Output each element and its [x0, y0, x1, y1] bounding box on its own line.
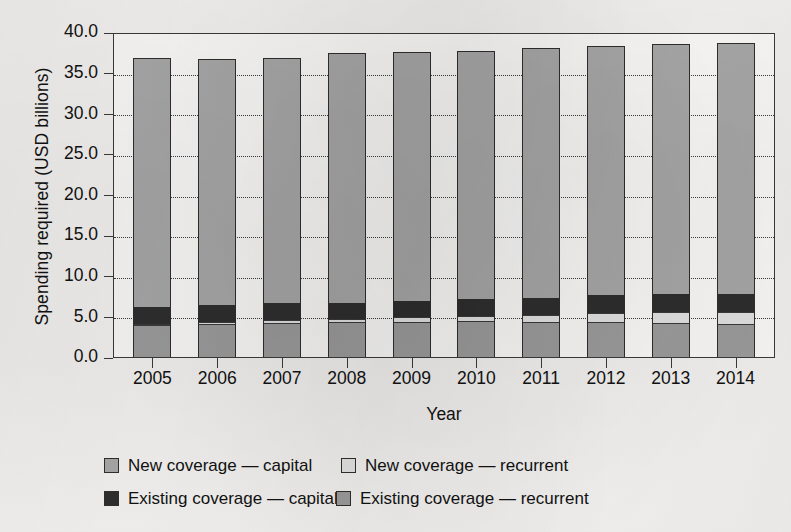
- bar-segment-existing-capital: [458, 299, 494, 315]
- bar-segment-new-capital: [329, 54, 365, 303]
- bar-segment-existing-capital: [329, 303, 365, 319]
- y-axis-tick-mark: [104, 276, 113, 277]
- legend-item-new-coverage-capital: New coverage — capital: [104, 456, 341, 476]
- y-axis-tick-mark: [104, 317, 113, 318]
- legend-item-new-coverage-recurrent: New coverage — recurrent: [341, 456, 568, 476]
- x-axis-tick: [476, 358, 477, 368]
- x-axis-tick-label: 2010: [444, 368, 508, 389]
- bar-segment-existing-capital: [653, 294, 689, 312]
- x-axis-tick: [541, 358, 542, 368]
- legend-row-bottom: Existing coverage — capital Existing cov…: [104, 482, 704, 515]
- bar-segment-new-capital: [458, 52, 494, 300]
- bar-segment-new-recurrent: [653, 312, 689, 323]
- bar-segment-existing-capital: [523, 298, 559, 315]
- bar-segment-existing-recurrent: [329, 323, 365, 357]
- y-axis-tick-mark: [104, 114, 113, 115]
- y-axis-tick-mark: [104, 358, 113, 359]
- legend-swatch-existing-coverage-recurrent-icon: [336, 491, 351, 506]
- x-axis-tick-label: 2013: [639, 368, 703, 389]
- bar-segment-existing-capital: [718, 294, 754, 313]
- bar-2014[interactable]: [717, 43, 755, 357]
- bar-segment-new-capital: [199, 60, 235, 305]
- x-axis-tick: [671, 358, 672, 368]
- bar-segment-existing-capital: [199, 305, 235, 322]
- bar-segment-existing-recurrent: [653, 324, 689, 357]
- bar-segment-new-capital: [718, 44, 754, 293]
- bar-segment-existing-capital: [394, 301, 430, 317]
- legend-row-top: New coverage — capital New coverage — re…: [104, 449, 704, 482]
- y-axis-tick-label: 0.0: [74, 348, 98, 366]
- bar-segment-existing-recurrent: [264, 324, 300, 357]
- x-axis-tick: [412, 358, 413, 368]
- bar-2007[interactable]: [263, 58, 301, 357]
- bar-2005[interactable]: [133, 58, 171, 357]
- bar-2009[interactable]: [393, 52, 431, 357]
- x-axis-title: Year: [113, 404, 775, 425]
- bar-segment-existing-capital: [588, 295, 624, 313]
- x-axis-tick-label: 2005: [120, 368, 184, 389]
- x-axis-tick-label: 2007: [250, 368, 314, 389]
- y-axis-tick-mark: [104, 195, 113, 196]
- bar-2006[interactable]: [198, 59, 236, 357]
- y-axis-tick-label: 15.0: [64, 226, 98, 244]
- y-axis-tick-label: 40.0: [64, 23, 98, 41]
- bar-segment-existing-recurrent: [134, 326, 170, 357]
- y-axis-tick-mark: [104, 154, 113, 155]
- x-axis-tick: [606, 358, 607, 368]
- bar-segment-existing-recurrent: [458, 322, 494, 357]
- legend-item-existing-coverage-recurrent: Existing coverage — recurrent: [336, 489, 589, 509]
- bar-segment-existing-recurrent: [523, 323, 559, 357]
- bar-segment-new-capital: [134, 59, 170, 307]
- y-axis-tick-mark: [104, 33, 113, 34]
- bar-segment-new-capital: [653, 45, 689, 294]
- y-axis-tick-label: 5.0: [74, 308, 98, 326]
- legend-label-existing-coverage-recurrent: Existing coverage — recurrent: [360, 489, 589, 509]
- x-axis-tick-label: 2006: [185, 368, 249, 389]
- y-axis-tick-label: 35.0: [64, 64, 98, 82]
- x-axis-tick-label: 2012: [574, 368, 638, 389]
- legend-label-new-coverage-recurrent: New coverage — recurrent: [365, 456, 568, 476]
- bar-2011[interactable]: [522, 48, 560, 357]
- bar-segment-new-recurrent: [718, 312, 754, 325]
- bar-segment-existing-capital: [134, 307, 170, 324]
- x-axis-tick: [736, 358, 737, 368]
- bar-segment-new-capital: [394, 53, 430, 301]
- bar-segment-new-capital: [264, 59, 300, 304]
- bar-2010[interactable]: [457, 51, 495, 358]
- bars-container: [114, 34, 774, 357]
- bar-segment-existing-recurrent: [394, 323, 430, 357]
- bar-segment-new-recurrent: [588, 313, 624, 323]
- x-axis-tick: [217, 358, 218, 368]
- bar-segment-existing-recurrent: [588, 323, 624, 357]
- legend-label-new-coverage-capital: New coverage — capital: [128, 456, 312, 476]
- y-axis-tick-label: 25.0: [64, 145, 98, 163]
- x-axis-tick-label: 2009: [380, 368, 444, 389]
- legend-label-existing-coverage-capital: Existing coverage — capital: [128, 489, 338, 509]
- stacked-bar-chart-figure: Spending required (USD billions) 0.05.01…: [0, 0, 791, 532]
- plot-area: [113, 33, 775, 358]
- y-axis-tick-label: 30.0: [64, 105, 98, 123]
- legend: New coverage — capital New coverage — re…: [104, 449, 704, 515]
- x-axis-tick-label: 2008: [315, 368, 379, 389]
- legend-swatch-new-coverage-capital-icon: [104, 458, 119, 473]
- y-axis-tick-mark: [104, 73, 113, 74]
- bar-segment-new-capital: [523, 49, 559, 298]
- bar-segment-new-recurrent: [523, 315, 559, 323]
- x-axis-tick-label: 2014: [704, 368, 768, 389]
- x-axis-tick: [347, 358, 348, 368]
- legend-swatch-existing-coverage-capital-icon: [104, 491, 119, 506]
- y-axis-tick-label: 10.0: [64, 267, 98, 285]
- x-axis-tick: [152, 358, 153, 368]
- bar-segment-existing-capital: [264, 303, 300, 320]
- legend-item-existing-coverage-capital: Existing coverage — capital: [104, 489, 336, 509]
- y-axis-ticks: 0.05.010.015.020.025.030.035.040.0: [0, 0, 113, 391]
- bar-segment-new-capital: [588, 47, 624, 295]
- x-axis-labels: 2005200620072008200920102011201220132014: [113, 368, 775, 394]
- bar-2008[interactable]: [328, 53, 366, 357]
- bar-segment-existing-recurrent: [718, 325, 754, 357]
- legend-swatch-new-coverage-recurrent-icon: [341, 458, 356, 473]
- bar-2012[interactable]: [587, 46, 625, 357]
- bar-2013[interactable]: [652, 44, 690, 357]
- x-axis-tick-label: 2011: [509, 368, 573, 389]
- y-axis-tick-mark: [104, 236, 113, 237]
